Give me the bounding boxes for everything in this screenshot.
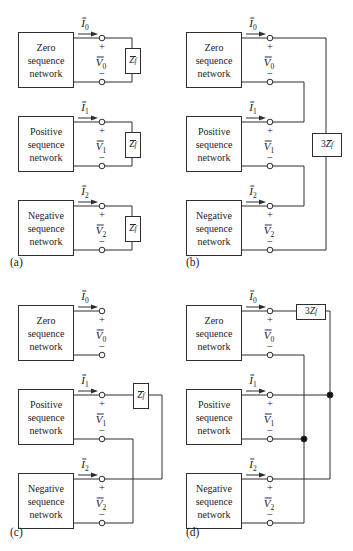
voltage-label-v0: V0 xyxy=(264,57,274,68)
voltage-label-v2: V2 xyxy=(264,498,274,509)
current-label-i2: I2 xyxy=(249,459,256,470)
impedance-box-zf: Zf xyxy=(125,48,141,74)
current-label-i0: I0 xyxy=(81,291,88,302)
minus-sign: − xyxy=(99,426,105,437)
negative-sequence-network-box: Negative sequence network xyxy=(18,200,74,256)
minus-sign: − xyxy=(267,69,273,80)
minus-sign: − xyxy=(267,237,273,248)
voltage-label-v1: V1 xyxy=(264,414,274,425)
impedance-box-3zf: 3Zf xyxy=(296,304,326,320)
positive-sequence-network-box: Positive sequence network xyxy=(186,116,242,172)
voltage-label-v0: V0 xyxy=(96,57,106,68)
plus-sign: + xyxy=(267,126,273,137)
voltage-label-v2: V2 xyxy=(96,498,106,509)
positive-sequence-network-box: Positive sequence network xyxy=(18,116,74,172)
current-label-i1: I1 xyxy=(249,375,256,386)
minus-sign: − xyxy=(267,153,273,164)
zero-sequence-network-box: Zero sequence network xyxy=(18,32,74,88)
wires xyxy=(72,311,162,523)
minus-sign: − xyxy=(99,153,105,164)
voltage-label-v1: V1 xyxy=(96,141,106,152)
panel-label-c: (c) xyxy=(10,526,23,538)
voltage-label-v1: V1 xyxy=(96,414,106,425)
plus-sign: + xyxy=(267,210,273,221)
wires xyxy=(240,311,330,523)
plus-sign: + xyxy=(267,42,273,53)
current-label-i2: I2 xyxy=(249,186,256,197)
plus-sign: + xyxy=(99,483,105,494)
plus-sign: + xyxy=(99,42,105,53)
plus-sign: + xyxy=(99,210,105,221)
panel-c-wiring xyxy=(72,305,162,526)
plus-sign: + xyxy=(267,399,273,410)
figure-sequence-networks: Zero sequence network I0 + V0 − Zf Posit… xyxy=(0,0,353,551)
plus-sign: + xyxy=(99,315,105,326)
current-label-i0: I0 xyxy=(249,18,256,29)
current-label-i1: I1 xyxy=(81,102,88,113)
plus-sign: + xyxy=(99,399,105,410)
positive-sequence-network-box: Positive sequence network xyxy=(18,389,74,445)
current-label-i1: I1 xyxy=(81,375,88,386)
current-label-i2: I2 xyxy=(81,186,88,197)
minus-sign: − xyxy=(99,342,105,353)
plus-sign: + xyxy=(267,315,273,326)
minus-sign: − xyxy=(267,426,273,437)
voltage-label-v0: V0 xyxy=(264,330,274,341)
voltage-label-v0: V0 xyxy=(96,330,106,341)
negative-sequence-network-box: Negative sequence network xyxy=(186,200,242,256)
zero-sequence-network-box: Zero sequence network xyxy=(18,305,74,361)
negative-sequence-network-box: Negative sequence network xyxy=(186,473,242,529)
junction-dot xyxy=(301,392,333,442)
minus-sign: − xyxy=(99,69,105,80)
current-label-i0: I0 xyxy=(249,291,256,302)
plus-sign: + xyxy=(267,483,273,494)
negative-sequence-network-box: Negative sequence network xyxy=(18,473,74,529)
positive-sequence-network-box: Positive sequence network xyxy=(186,389,242,445)
voltage-label-v2: V2 xyxy=(96,225,106,236)
impedance-box-zf: Zf xyxy=(125,216,141,242)
voltage-label-v1: V1 xyxy=(264,141,274,152)
zero-sequence-network-box: Zero sequence network xyxy=(186,32,242,88)
current-label-i2: I2 xyxy=(81,459,88,470)
panel-d-wiring xyxy=(240,305,333,526)
panel-label-a: (a) xyxy=(10,256,23,268)
minus-sign: − xyxy=(267,510,273,521)
plus-sign: + xyxy=(99,126,105,137)
current-label-i1: I1 xyxy=(249,102,256,113)
voltage-label-v2: V2 xyxy=(264,225,274,236)
minus-sign: − xyxy=(99,237,105,248)
impedance-box-3zf: 3Zf xyxy=(312,133,342,157)
panel-label-d: (d) xyxy=(186,526,199,538)
minus-sign: − xyxy=(99,510,105,521)
minus-sign: − xyxy=(267,342,273,353)
zero-sequence-network-box: Zero sequence network xyxy=(186,305,242,361)
impedance-box-zf: Zf xyxy=(125,132,141,158)
impedance-box-zf: Zf xyxy=(133,383,149,409)
panel-label-b: (b) xyxy=(186,256,199,268)
current-label-i0: I0 xyxy=(81,18,88,29)
